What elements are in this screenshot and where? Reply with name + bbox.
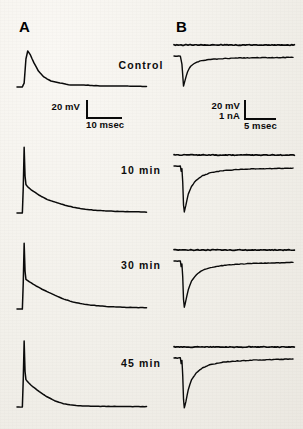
- trace-panel-b-10-min: [172, 150, 297, 216]
- scalebar-panel-b: 20 mV 1 nA 5 msec: [188, 100, 298, 132]
- scalebar-a-horizontal-label: 10 msec: [86, 119, 124, 130]
- trace-panel-a-45-min: [14, 330, 154, 410]
- scalebar-a-vertical-label: 20 mV: [18, 101, 80, 112]
- panel-letter-a: A: [19, 18, 30, 35]
- trace-panel-b-30-min: [172, 245, 297, 311]
- trace-panel-a-30-min: [14, 232, 154, 312]
- scalebar-panel-a: 20 mV 10 msec: [18, 100, 138, 130]
- scalebar-b-vertical-bar: [244, 100, 246, 120]
- scalebar-b-vertical-label-2: 1 nA: [188, 110, 240, 121]
- scalebar-b-horizontal-label: 5 msec: [244, 120, 277, 131]
- trace-panel-b-control: [172, 40, 297, 90]
- trace-panel-a-10-min: [14, 136, 154, 216]
- scalebar-a-vertical-bar: [86, 100, 88, 119]
- figure-canvas: A B Control 10 min 30 min 45 min 20 mV 1…: [0, 0, 303, 429]
- panel-letter-b: B: [176, 18, 187, 35]
- trace-panel-a-control: [14, 40, 154, 90]
- trace-panel-b-45-min: [172, 342, 297, 412]
